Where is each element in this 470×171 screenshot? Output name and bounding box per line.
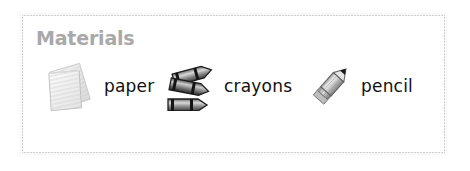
material-label-pencil: pencil [361, 76, 413, 96]
panel-title: Materials [36, 28, 134, 48]
lined-paper-stack-icon [42, 57, 100, 115]
material-item-crayons: crayons [165, 51, 292, 121]
material-item-pencil: pencil [310, 51, 413, 121]
materials-list: paper [30, 51, 437, 121]
material-label-crayons: crayons [224, 76, 292, 96]
material-label-paper: paper [104, 76, 154, 96]
materials-panel: Materials [20, 13, 447, 155]
pencil-icon [310, 61, 354, 111]
crayons-icon [165, 61, 219, 111]
material-item-paper: paper [42, 51, 154, 121]
